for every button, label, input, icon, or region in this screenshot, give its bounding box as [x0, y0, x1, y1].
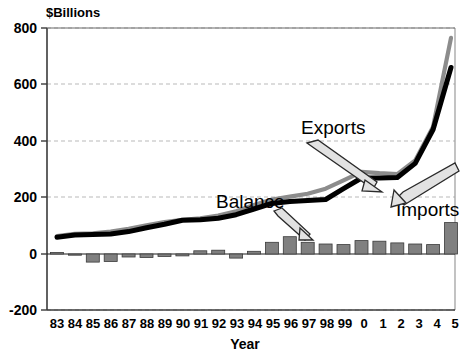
bar-99	[337, 245, 350, 254]
bar-89	[158, 254, 171, 256]
xtick-label-83: 83	[50, 316, 64, 331]
bar-86	[104, 254, 117, 262]
xtick-label-98: 98	[320, 316, 334, 331]
xtick-label-05: 5	[451, 316, 458, 331]
bar-83	[51, 253, 64, 255]
bar-92	[212, 250, 225, 254]
xtick-label-97: 97	[302, 316, 316, 331]
bar-87	[122, 254, 135, 257]
xtick-label-02: 2	[397, 316, 404, 331]
xtick-label-90: 90	[176, 316, 190, 331]
xtick-label-86: 86	[104, 316, 118, 331]
xtick-label-93: 93	[230, 316, 244, 331]
xtick-label-99: 99	[338, 316, 352, 331]
bar-96	[283, 237, 296, 254]
ytick-label-600: 600	[14, 76, 38, 92]
xtick-label-87: 87	[122, 316, 136, 331]
bar-00	[355, 241, 368, 254]
xtick-label-88: 88	[140, 316, 154, 331]
bar-02	[391, 243, 404, 254]
ytick-label-800: 800	[14, 20, 38, 36]
xtick-label-85: 85	[86, 316, 100, 331]
bar-01	[373, 241, 386, 254]
bar-85	[86, 254, 99, 262]
bar-94	[248, 251, 261, 254]
xtick-label-00: 0	[360, 316, 367, 331]
xtick-label-89: 89	[158, 316, 172, 331]
xtick-label-91: 91	[194, 316, 208, 331]
bar-93	[230, 254, 243, 258]
bar-05	[445, 223, 458, 254]
xtick-label-92: 92	[212, 316, 226, 331]
xtick-label-95: 95	[266, 316, 280, 331]
chart-container: $Billions 800 600	[0, 0, 473, 354]
bar-95	[265, 242, 278, 254]
y-axis-unit-label: $Billions	[46, 5, 100, 20]
x-axis-title: Year	[230, 336, 260, 352]
bar-84	[68, 254, 81, 255]
ytick-label-0: 0	[29, 246, 37, 262]
xtick-label-94: 94	[248, 316, 263, 331]
balance-label: Balance	[216, 191, 285, 212]
bar-04	[427, 245, 440, 254]
bar-91	[194, 251, 207, 254]
xtick-label-84: 84	[68, 316, 83, 331]
exports-label: Exports	[301, 117, 365, 138]
x-tick-labels: 83 84 85 86 87 88 89 90 91 92 93 94 95 9…	[50, 316, 459, 331]
ytick-label-200: 200	[14, 189, 38, 205]
xtick-label-03: 3	[415, 316, 422, 331]
bar-90	[176, 254, 189, 256]
chart-background	[0, 0, 473, 354]
bar-98	[319, 244, 332, 254]
bar-97	[301, 242, 314, 254]
xtick-label-96: 96	[284, 316, 298, 331]
ytick-label-minus200: -200	[9, 302, 37, 318]
ytick-label-400: 400	[14, 133, 38, 149]
xtick-label-01: 1	[379, 316, 386, 331]
trade-balance-chart: $Billions 800 600	[0, 0, 473, 354]
bar-03	[409, 244, 422, 254]
xtick-label-04: 4	[433, 316, 441, 331]
bar-88	[140, 254, 153, 258]
